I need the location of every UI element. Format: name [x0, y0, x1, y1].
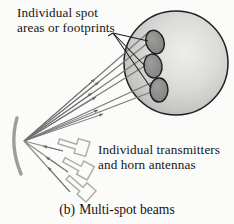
label-transmitters-line-2: and horn antennas — [98, 158, 220, 173]
label-individual-spot-areas: Individual spot areas or footprints — [17, 6, 115, 35]
beam-ray-6 — [24, 89, 159, 141]
label-individual-transmitters: Individual transmitters and horn antenna… — [98, 143, 220, 172]
beam-ray-5 — [24, 82, 153, 141]
caption-text: Multi-spot beams — [79, 202, 175, 217]
parabolic-reflector — [14, 118, 21, 174]
figure-caption: (b)Multi-spot beams — [0, 202, 234, 218]
caption-index: (b) — [59, 202, 75, 217]
feed-ray-arrowheads — [43, 146, 70, 192]
earth-coverage-sphere — [124, 11, 228, 115]
label-spots-line-1: Individual spot — [17, 6, 115, 21]
horn-antenna-2 — [61, 152, 95, 180]
spot-beam-3 — [150, 78, 169, 103]
label-spots-line-2: areas or footprints — [17, 21, 115, 36]
figure-multi-spot-beams: Individual spot areas or footprints Indi… — [0, 0, 234, 224]
label-transmitters-line-1: Individual transmitters — [98, 143, 220, 158]
horn-antenna-1 — [57, 133, 90, 156]
